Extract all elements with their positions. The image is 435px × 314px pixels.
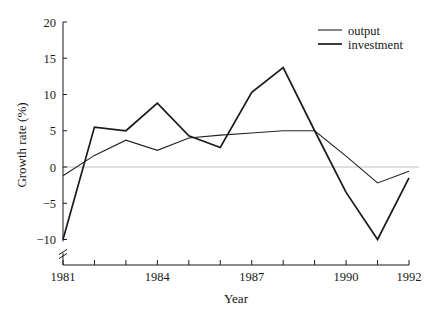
chart-legend: outputinvestment [318,24,403,52]
x-tick-label-1984: 1984 [145,270,171,284]
legend-label-investment: investment [348,38,403,52]
y-tick-label-0: 0 [50,161,56,175]
y-tick-label-10: 10 [44,88,57,102]
legend-label-output: output [348,24,380,38]
chart-canvas: −10−505101520 19811984198719901992 outpu… [0,0,435,314]
y-tick-label-5: 5 [50,124,56,138]
x-axis-title: Year [224,291,249,306]
series-line-output [63,131,409,183]
axis-tick-marks [63,22,409,265]
x-tick-label-1990: 1990 [334,270,359,284]
x-axis-tick-labels: 19811984198719901992 [51,270,422,284]
x-tick-label-1992: 1992 [397,270,422,284]
y-tick-label-20: 20 [44,16,57,30]
x-tick-label-1981: 1981 [51,270,76,284]
y-tick-label--10: −10 [36,233,56,247]
data-series-lines [63,68,409,240]
y-tick-label--5: −5 [43,197,56,211]
growth-rate-line-chart: −10−505101520 19811984198719901992 outpu… [0,0,435,314]
y-axis-title: Growth rate (%) [14,102,29,187]
x-tick-label-1987: 1987 [239,270,264,284]
y-tick-label-15: 15 [44,52,57,66]
y-axis-tick-labels: −10−505101520 [36,16,56,248]
chart-axes [63,22,409,265]
series-line-investment [63,68,409,240]
